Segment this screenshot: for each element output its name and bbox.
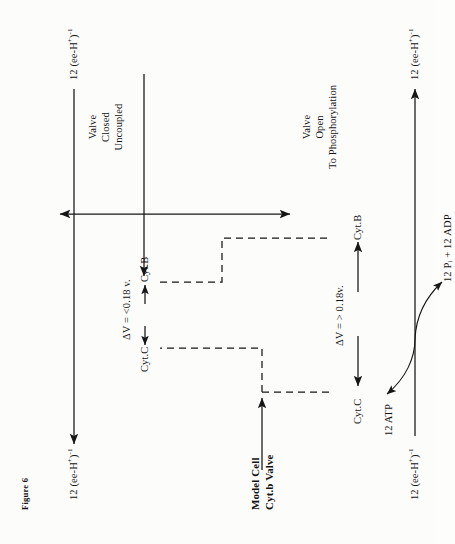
state-open-line2: Open <box>313 62 326 192</box>
cyt-c-upper-label: Cyt.C <box>138 347 151 372</box>
delta-v-upper-label: ΔV = <0.18 v. <box>120 279 133 340</box>
state-closed-line3: Uncoupled <box>112 62 125 192</box>
flux-label-bottom-left: 12 (ee-H+)-1 <box>407 448 421 500</box>
dashed-upper-left-stem <box>160 348 262 392</box>
cyt-b-upper-label: Cyt.B <box>138 257 151 282</box>
figure-title-line2: Cyt.b Valve <box>262 455 276 511</box>
figure-title-line1: Model Cell <box>248 457 262 510</box>
pi-adp-label: 12 Pi + 12 ADP <box>441 214 455 282</box>
delta-v-lower-label: ΔV = > 0.18v. <box>333 285 346 346</box>
cyt-b-lower-label: Cyt.B <box>351 215 364 240</box>
state-closed-line1: Valve <box>86 62 99 192</box>
state-open-line3: To Phosphorylation <box>326 62 339 192</box>
flux-label-top-left: 12 (ee-H+)-1 <box>66 448 80 500</box>
atp-label: 12 ATP <box>382 404 395 436</box>
dashed-right-stem <box>160 238 330 282</box>
flux-label-top-right: 12 (ee-H+)-1 <box>66 28 80 80</box>
cyt-c-lower-label: Cyt.C <box>351 399 364 424</box>
state-open-line1: Valve <box>300 62 313 192</box>
atp-curve-arrow <box>387 339 415 394</box>
state-closed-line2: Closed <box>99 62 112 192</box>
pi-adp-curve-arrow <box>415 282 442 339</box>
figure-number: Figure 6 <box>20 478 31 510</box>
flux-label-bottom-right: 12 (ee-H+)-1 <box>407 28 421 80</box>
